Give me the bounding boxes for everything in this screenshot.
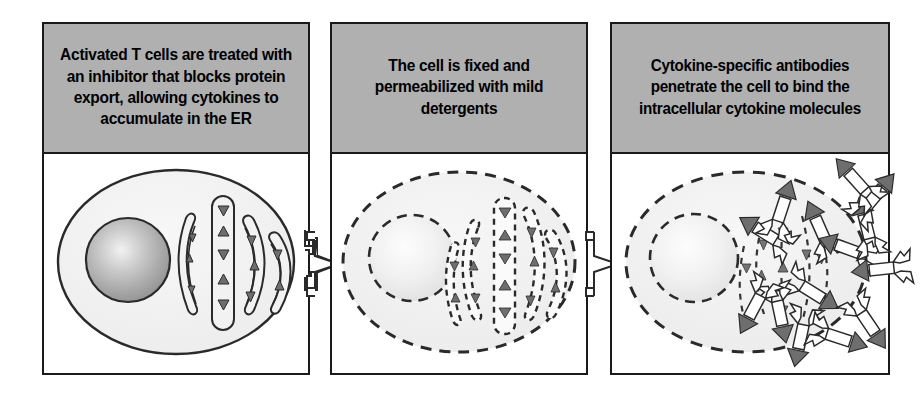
er-sac bbox=[494, 198, 515, 334]
panel-2-illustration bbox=[332, 154, 586, 373]
nucleus bbox=[650, 214, 738, 302]
panel-3: Cytokine-specific antibodies penetrate t… bbox=[610, 22, 890, 375]
intact-activated-t-cell-diagram bbox=[44, 154, 308, 373]
permeabilized-cell-diagram bbox=[332, 154, 586, 373]
er-sac bbox=[212, 196, 234, 330]
nucleus bbox=[369, 215, 455, 301]
panel-1-illustration bbox=[44, 154, 308, 373]
antibody-bound-cell-diagram bbox=[612, 154, 888, 373]
panel-3-header: Cytokine-specific antibodies penetrate t… bbox=[612, 24, 888, 154]
panel-1: Activated T cells are treated with an in… bbox=[42, 22, 310, 375]
nucleus bbox=[86, 218, 170, 302]
panel-3-caption: Cytokine-specific antibodies penetrate t… bbox=[628, 55, 872, 118]
process-diagram-figure: Activated T cells are treated with an in… bbox=[0, 0, 921, 405]
panel-1-header: Activated T cells are treated with an in… bbox=[44, 24, 308, 154]
panel-2-caption: The cell is fixed and permeabilized with… bbox=[347, 55, 571, 119]
panel-2: The cell is fixed and permeabilized with… bbox=[330, 22, 588, 375]
panel-3-illustration bbox=[612, 154, 888, 373]
panel-2-header: The cell is fixed and permeabilized with… bbox=[332, 24, 586, 154]
panel-1-caption: Activated T cells are treated with an in… bbox=[59, 44, 292, 130]
